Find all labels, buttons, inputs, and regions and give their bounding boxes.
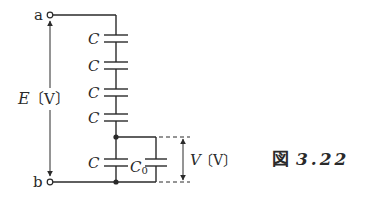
capacitor-4 <box>104 114 128 121</box>
capacitor-c0 <box>145 159 167 166</box>
c0-symbol: C <box>130 158 142 176</box>
capacitor-3-label: C <box>88 84 100 102</box>
terminal-a <box>47 12 53 18</box>
capacitor-2 <box>104 62 128 69</box>
c0-subscript: 0 <box>141 165 147 176</box>
capacitor-3 <box>104 89 128 96</box>
capacitor-2-label: C <box>88 57 100 75</box>
figure-caption-number: 3.22 <box>296 149 349 169</box>
capacitor-c0-label: C0 <box>130 158 148 176</box>
circuit-diagram: a b E 〔V〕 C C C C C C0 V 〔V〕 図 3.22 <box>0 0 378 201</box>
capacitor-1-label: C <box>88 30 100 48</box>
capacitor-1 <box>104 35 128 42</box>
terminal-b-label: b <box>33 173 43 191</box>
voltage-unit: 〔V〕 <box>199 152 237 168</box>
junction-dot-bottom <box>113 179 118 184</box>
source-voltage-unit: 〔V〕 <box>29 90 70 108</box>
terminal-b <box>47 179 53 185</box>
capacitor-lower-label: C <box>88 154 100 172</box>
junction-dot-top <box>113 134 118 139</box>
capacitor-4-label: C <box>88 109 100 127</box>
capacitor-lower <box>104 159 128 166</box>
figure-caption-prefix: 図 <box>272 149 289 169</box>
terminal-a-label: a <box>34 6 43 24</box>
